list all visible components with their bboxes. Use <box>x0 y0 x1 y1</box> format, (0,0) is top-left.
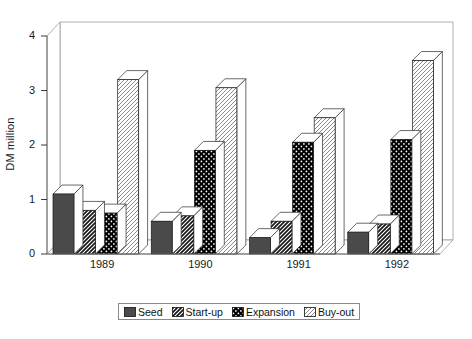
x-tick-label-1991: 1991 <box>269 258 329 270</box>
legend-label: Buy-out <box>318 306 354 318</box>
legend-swatch-expansion <box>232 307 244 317</box>
bar-seed-1990 <box>151 212 181 254</box>
chart-legend: SeedStart-upExpansionBuy-out <box>118 303 360 320</box>
y-tick-label: 3 <box>17 84 35 96</box>
legend-entry-expansion: Expansion <box>232 306 295 318</box>
legend-swatch-seed <box>124 307 136 317</box>
y-tick-label: 0 <box>17 247 35 259</box>
y-tick-label: 4 <box>17 29 35 41</box>
legend-swatch-buyout <box>304 307 316 317</box>
bar-seed-1992 <box>348 223 378 254</box>
x-tick-label-1992: 1992 <box>367 258 427 270</box>
chart-container: DM million <box>0 0 472 339</box>
legend-entry-buyout: Buy-out <box>304 306 354 318</box>
legend-swatch-startup <box>172 307 184 317</box>
legend-label: Start-up <box>186 306 223 318</box>
legend-label: Expansion <box>246 306 295 318</box>
legend-entry-startup: Start-up <box>172 306 223 318</box>
y-tick-label: 2 <box>17 138 35 150</box>
bar-seed-1989 <box>53 185 83 254</box>
x-tick-label-1990: 1990 <box>170 258 230 270</box>
x-tick-label-1989: 1989 <box>72 258 132 270</box>
legend-entry-seed: Seed <box>124 306 163 318</box>
y-tick-label: 1 <box>17 193 35 205</box>
chart-plot-area <box>0 0 472 339</box>
legend-label: Seed <box>138 306 163 318</box>
